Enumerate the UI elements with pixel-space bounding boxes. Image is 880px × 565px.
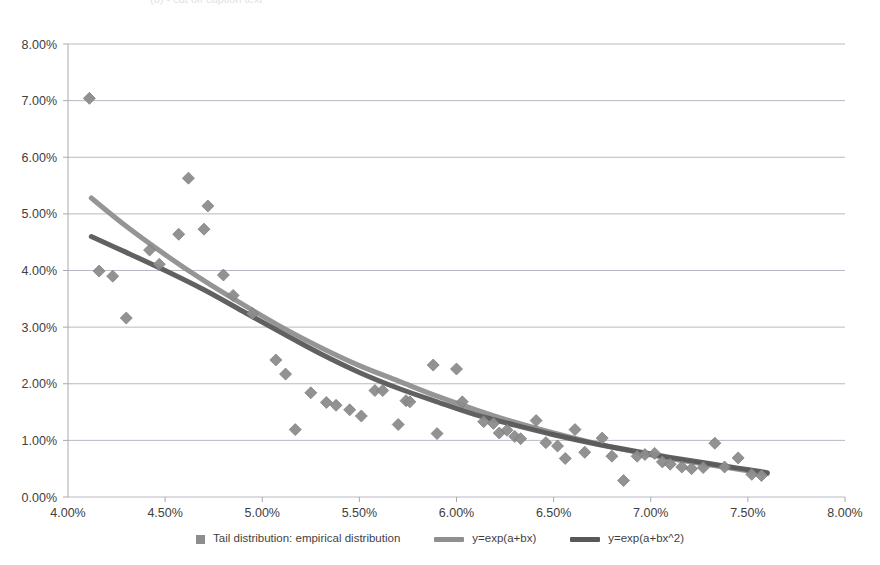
data-point-marker bbox=[330, 399, 342, 411]
data-point-marker bbox=[719, 461, 731, 473]
series-line-exp-bx bbox=[91, 198, 767, 474]
legend-item-exp-bx[interactable]: y=exp(a+bx) bbox=[434, 533, 536, 545]
data-point-marker bbox=[431, 428, 443, 440]
data-point-marker bbox=[182, 172, 194, 184]
data-point-marker bbox=[289, 424, 301, 436]
data-point-marker bbox=[559, 452, 571, 464]
data-point-marker bbox=[709, 437, 721, 449]
ytick-label: 5.00% bbox=[22, 207, 57, 221]
legend-line-icon-exp-bx bbox=[434, 537, 464, 542]
scatter-plot-canvas: 0.00%1.00%2.00%3.00%4.00%5.00%6.00%7.00%… bbox=[0, 0, 880, 525]
legend-line-icon-exp-bx2 bbox=[570, 537, 600, 542]
legend-label-exp-bx2: y=exp(a+bx^2) bbox=[608, 533, 684, 545]
data-point-marker bbox=[618, 475, 630, 487]
xtick-label: 5.50% bbox=[342, 506, 377, 520]
ytick-label: 8.00% bbox=[22, 38, 57, 52]
chart-legend: Tail distribution: empirical distributio… bbox=[0, 528, 880, 550]
xtick-label: 4.50% bbox=[147, 506, 182, 520]
legend-marker-icon bbox=[196, 535, 205, 544]
data-point-marker bbox=[451, 363, 463, 375]
data-point-marker bbox=[606, 450, 618, 462]
xtick-label: 4.00% bbox=[50, 506, 85, 520]
data-point-marker bbox=[540, 437, 552, 449]
xtick-label: 5.00% bbox=[245, 506, 280, 520]
data-point-marker bbox=[83, 92, 95, 104]
data-point-marker bbox=[732, 452, 744, 464]
data-point-marker bbox=[173, 228, 185, 240]
data-point-marker bbox=[305, 387, 317, 399]
ytick-label: 4.00% bbox=[22, 264, 57, 278]
xtick-label: 7.00% bbox=[633, 506, 668, 520]
data-point-marker bbox=[344, 404, 356, 416]
ytick-label: 7.00% bbox=[22, 94, 57, 108]
xtick-label: 6.00% bbox=[439, 506, 474, 520]
data-point-marker bbox=[569, 424, 581, 436]
data-point-marker bbox=[355, 410, 367, 422]
data-point-marker bbox=[202, 200, 214, 212]
data-point-marker bbox=[120, 312, 132, 324]
data-point-marker bbox=[579, 446, 591, 458]
legend-label-empirical: Tail distribution: empirical distributio… bbox=[213, 533, 400, 545]
data-point-marker bbox=[427, 359, 439, 371]
xtick-label: 8.00% bbox=[827, 506, 862, 520]
data-point-marker bbox=[270, 354, 282, 366]
ytick-label: 1.00% bbox=[22, 434, 57, 448]
legend-item-empirical[interactable]: Tail distribution: empirical distributio… bbox=[196, 533, 400, 545]
data-point-marker bbox=[320, 396, 332, 408]
legend-label-exp-bx: y=exp(a+bx) bbox=[472, 533, 536, 545]
data-point-marker bbox=[93, 265, 105, 277]
legend-item-exp-bx2[interactable]: y=exp(a+bx^2) bbox=[570, 533, 684, 545]
data-point-marker bbox=[280, 368, 292, 380]
ytick-label: 3.00% bbox=[22, 321, 57, 335]
data-point-marker bbox=[392, 419, 404, 431]
data-point-marker bbox=[198, 223, 210, 235]
ytick-label: 0.00% bbox=[22, 491, 57, 505]
ytick-label: 2.00% bbox=[22, 377, 57, 391]
data-point-marker bbox=[107, 270, 119, 282]
ytick-label: 6.00% bbox=[22, 151, 57, 165]
xtick-label: 6.50% bbox=[536, 506, 571, 520]
chart-figure: (b) - cut off caption text 0.00%1.00%2.0… bbox=[0, 0, 880, 565]
xtick-label: 7.50% bbox=[730, 506, 765, 520]
data-point-marker bbox=[552, 440, 564, 452]
